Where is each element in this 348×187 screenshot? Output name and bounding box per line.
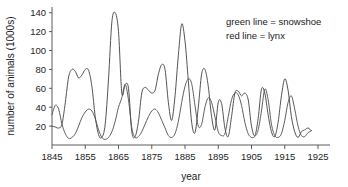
y-axis-tick-labels: 20406080100120140 xyxy=(30,7,46,131)
x-tick-label: 1875 xyxy=(141,151,162,162)
x-tick-label: 1915 xyxy=(274,151,295,162)
legend: green line = snowshoe red line = lynx xyxy=(226,16,321,41)
y-tick-label: 60 xyxy=(35,83,46,94)
x-axis-tick-labels: 184518551865187518851895190519151925 xyxy=(41,151,328,162)
x-tick-label: 1885 xyxy=(174,151,195,162)
y-tick-label: 140 xyxy=(30,7,46,18)
x-tick-label: 1895 xyxy=(208,151,229,162)
y-tick-label: 100 xyxy=(30,45,46,56)
plot-axes xyxy=(52,7,330,145)
y-axis-title: number of animals (1000s) xyxy=(5,17,16,136)
population-cycles-line-chart: 20406080100120140 1845185518651875188518… xyxy=(0,0,348,187)
x-axis-tick-marks xyxy=(52,145,318,149)
series-line-lynx xyxy=(52,79,311,140)
x-tick-label: 1855 xyxy=(75,151,96,162)
x-tick-label: 1865 xyxy=(108,151,129,162)
y-tick-label: 80 xyxy=(35,64,46,75)
x-tick-label: 1845 xyxy=(41,151,62,162)
y-tick-label: 120 xyxy=(30,26,46,37)
y-tick-label: 20 xyxy=(35,121,46,132)
legend-entry-snowshoe: green line = snowshoe xyxy=(226,16,321,27)
x-tick-label: 1925 xyxy=(307,151,328,162)
legend-entry-lynx: red line = lynx xyxy=(226,30,285,41)
y-tick-label: 40 xyxy=(35,102,46,113)
x-tick-label: 1905 xyxy=(241,151,262,162)
chart-figure: 20406080100120140 1845185518651875188518… xyxy=(0,0,348,187)
x-axis-title: year xyxy=(181,171,201,182)
